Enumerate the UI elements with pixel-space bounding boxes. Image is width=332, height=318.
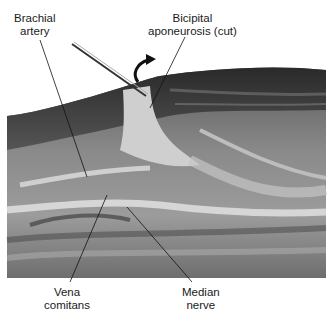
label-bicipital-aponeurosis: Bicipital aponeurosis (cut) [148, 12, 237, 38]
anatomy-figure: Brachial artery Bicipital aponeurosis (c… [0, 0, 332, 318]
label-brachial-artery: Brachial artery [14, 12, 56, 38]
label-vena-comitans: Vena comitans [44, 286, 90, 312]
label-median-nerve: Median nerve [182, 286, 220, 312]
dissection-photo [0, 0, 332, 318]
